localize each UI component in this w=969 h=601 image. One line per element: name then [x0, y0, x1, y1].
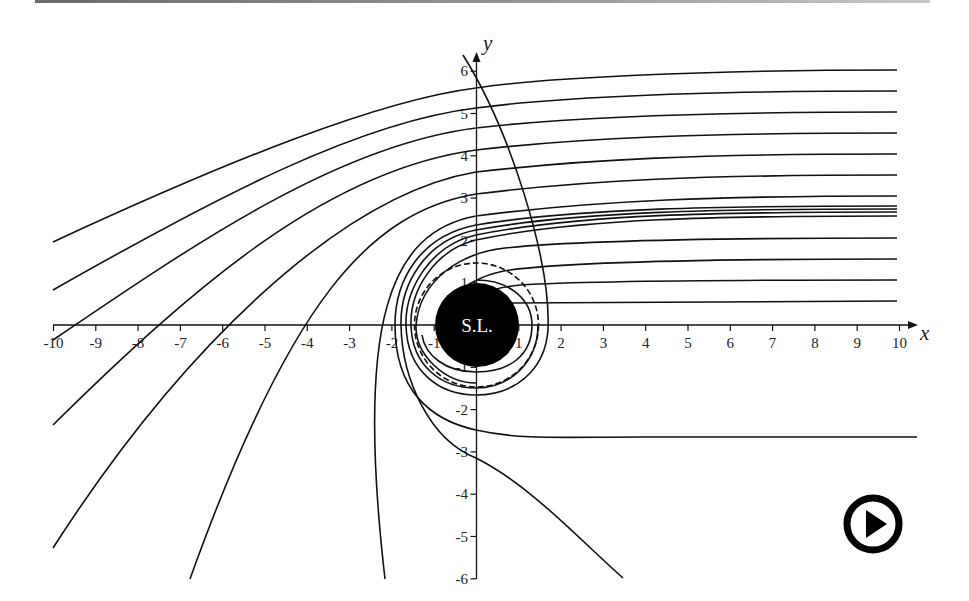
x-tick-label: -7: [174, 335, 187, 351]
ray-b4.5: [53, 133, 897, 425]
x-axis-label: x: [919, 321, 930, 345]
x-axis-arrow-icon: [908, 321, 918, 329]
x-tick-label: 2: [557, 335, 565, 351]
ray-b3.05: [374, 196, 897, 579]
ray-b2.74: [401, 209, 897, 578]
x-tick-label: 4: [642, 335, 650, 351]
y-tick-label: 5: [461, 106, 469, 122]
ray-b1.06: [480, 280, 897, 295]
ray-b0.57: [510, 301, 897, 303]
ray-b3.5: [190, 175, 897, 579]
y-tick-label: 2: [461, 233, 469, 249]
black-hole-label: S.L.: [461, 315, 493, 336]
x-tick-label: -10: [44, 335, 64, 351]
x-tick-label: 9: [853, 335, 861, 351]
x-tick-label: -9: [90, 335, 103, 351]
y-tick-label: -3: [456, 444, 469, 460]
play-button[interactable]: [842, 493, 904, 555]
y-tick-label: -2: [456, 402, 469, 418]
light-trajectory-diagram: x y -10 -9 -8 -7 -6 -5 -4 -3 -2 -1 1: [0, 0, 969, 601]
x-tick-label: 3: [600, 335, 608, 351]
y-tick-label: -6: [456, 571, 469, 587]
x-tick-label: -3: [343, 335, 356, 351]
play-icon: [842, 493, 904, 555]
x-tick-label: -6: [216, 335, 229, 351]
x-tick-label: -4: [301, 335, 314, 351]
y-tick-label: 6: [461, 63, 469, 79]
y-tick-label: 3: [461, 190, 469, 206]
y-tick-label: -5: [456, 529, 469, 545]
x-tick-label: 6: [727, 335, 735, 351]
y-tick-label: 4: [461, 148, 469, 164]
x-tick-label: 7: [769, 335, 777, 351]
y-axis-arrow-icon: [473, 52, 481, 62]
x-tick-label: 5: [684, 335, 692, 351]
y-tick-label: -4: [456, 486, 469, 502]
x-tick-label: 10: [892, 335, 907, 351]
y-axis-label: y: [481, 31, 493, 55]
x-tick-label: -5: [259, 335, 272, 351]
x-tick-label: 8: [811, 335, 819, 351]
